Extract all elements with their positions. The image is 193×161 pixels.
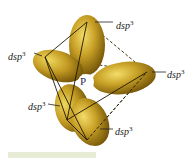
label-text: dsp — [115, 126, 129, 137]
label-exponent: 3 — [129, 125, 133, 133]
label-text: dsp — [28, 101, 42, 112]
label-exponent: 3 — [42, 100, 46, 108]
label-text: dsp — [116, 20, 130, 31]
label-exponent: 3 — [130, 19, 134, 27]
orbital-drawing — [0, 0, 193, 161]
label-exponent: 3 — [181, 68, 185, 76]
dsp3-orbital-diagram: P dsp3 dsp3 dsp3 dsp3 dsp3 — [0, 0, 193, 161]
label-dsp3-lower-left: dsp3 — [28, 99, 45, 112]
label-text: dsp — [167, 69, 181, 80]
label-dsp3-right: dsp3 — [167, 67, 184, 80]
label-dsp3-left: dsp3 — [8, 49, 25, 62]
label-dsp3-bottom: dsp3 — [115, 124, 132, 137]
caption-bar — [8, 152, 96, 158]
central-atom-label: P — [80, 76, 86, 86]
label-text: dsp — [8, 51, 22, 62]
label-dsp3-top: dsp3 — [116, 18, 133, 31]
label-exponent: 3 — [22, 50, 26, 58]
